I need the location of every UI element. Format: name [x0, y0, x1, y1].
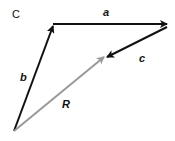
- vector-diagram: C a b c R: [0, 0, 175, 141]
- vector-c-label: c: [139, 52, 145, 64]
- vector-a-label: a: [103, 6, 109, 18]
- vector-c-arrow: [107, 27, 167, 57]
- vector-R-label: R: [62, 98, 70, 110]
- vector-b-label: b: [20, 71, 27, 83]
- panel-label: C: [12, 8, 20, 20]
